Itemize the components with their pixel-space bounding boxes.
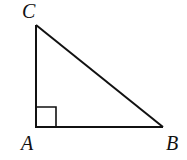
triangle-diagram: C A B — [0, 0, 187, 160]
right-angle-marker — [36, 107, 56, 127]
vertex-label-b: B — [166, 133, 178, 153]
vertex-label-a: A — [21, 133, 33, 153]
vertex-label-c: C — [22, 1, 35, 21]
side-bc — [36, 25, 163, 127]
